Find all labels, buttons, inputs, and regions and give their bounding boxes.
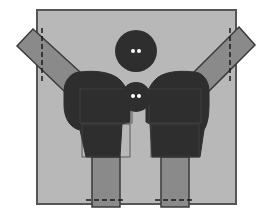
large-head-circle: [115, 30, 157, 72]
large-head-right-eye: [137, 49, 141, 53]
large-head: [115, 30, 157, 72]
large-head-left-eye: [131, 49, 135, 53]
diagram-canvas: [0, 0, 269, 215]
right-torso: [146, 71, 209, 157]
figure-diagram: [0, 0, 269, 215]
small-head: [121, 82, 151, 112]
small-head-right-eye: [137, 94, 141, 98]
small-head-circle: [121, 82, 151, 112]
small-head-left-eye: [131, 94, 135, 98]
